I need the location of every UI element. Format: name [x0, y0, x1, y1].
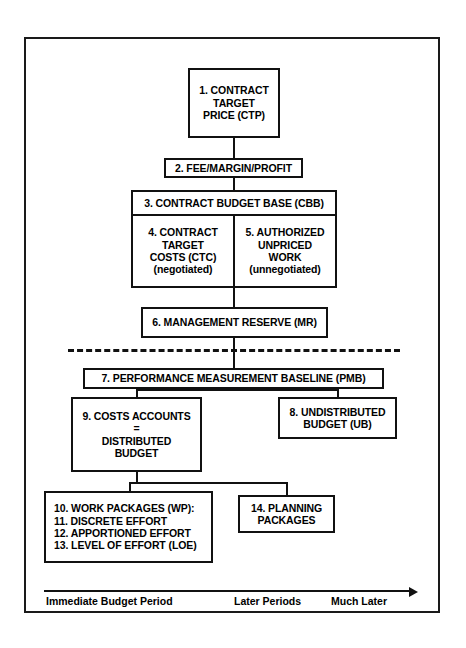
box-9-line-4: BUDGET	[115, 447, 159, 459]
box-1-line-3: PRICE (CTP)	[203, 109, 265, 121]
box-9-costs-accounts[interactable]: 9. COSTS ACCOUNTS = DISTRIBUTED BUDGET	[71, 397, 202, 472]
box-3-contract-budget-base[interactable]: 3. CONTRACT BUDGET BASE (CBB)	[131, 190, 337, 216]
box-7-line-1: 7. PERFORMANCE MEASUREMENT BASELINE (PMB…	[101, 372, 365, 384]
box-10-work-packages[interactable]: 10. WORK PACKAGES (WP): 11. DISCRETE EFF…	[44, 491, 213, 563]
connector-box6-to-box7	[233, 338, 235, 368]
connector-branch-to-box14	[286, 482, 288, 495]
dashed-separator-line	[68, 349, 400, 352]
box-5-line-3: WORK	[269, 251, 302, 263]
box-10-line-3: 12. APPORTIONED EFFORT	[54, 527, 191, 539]
connector-box2-to-box3	[233, 178, 235, 190]
box-5-line-1: 5. AUTHORIZED	[246, 226, 325, 238]
connector-branch-to-box10	[129, 482, 131, 491]
box-8-line-2: BUDGET (UB)	[303, 418, 371, 430]
box-10-line-1: 10. WORK PACKAGES (WP):	[54, 502, 194, 514]
box-3-line-1: 3. CONTRACT BUDGET BASE (CBB)	[144, 197, 324, 209]
connector-branch-bar-box9-box8	[136, 389, 339, 391]
connector-branch-to-box8	[337, 389, 339, 397]
box-9-line-1: 9. COSTS ACCOUNTS	[82, 410, 190, 422]
box-6-management-reserve[interactable]: 6. MANAGEMENT RESERVE (MR)	[141, 307, 328, 338]
box-9-line-3: DISTRIBUTED	[102, 435, 171, 447]
connector-box45-to-box6	[233, 286, 235, 307]
diagram-canvas: 1. CONTRACT TARGET PRICE (CTP) 2. FEE/MA…	[0, 0, 466, 648]
box-6-line-1: 6. MANAGEMENT RESERVE (MR)	[152, 316, 317, 328]
box-8-undistributed-budget[interactable]: 8. UNDISTRIBUTED BUDGET (UB)	[278, 397, 397, 439]
timeline-axis	[44, 590, 410, 592]
timeline-label-later-periods: Later Periods	[234, 595, 301, 607]
box-5-authorized-unpriced-work[interactable]: 5. AUTHORIZED UNPRICED WORK (unnegotiate…	[233, 214, 337, 288]
box-4-line-4: (negotiated)	[154, 263, 213, 275]
diagram-outer-frame: 1. CONTRACT TARGET PRICE (CTP) 2. FEE/MA…	[24, 37, 440, 613]
timeline-arrow-icon	[409, 587, 418, 597]
box-14-planning-packages[interactable]: 14. PLANNING PACKAGES	[238, 495, 335, 533]
timeline-label-much-later: Much Later	[331, 595, 387, 607]
connector-box1-to-box2	[233, 138, 235, 159]
box-8-line-1: 8. UNDISTRIBUTED	[290, 406, 386, 418]
box-10-line-4: 13. LEVEL OF EFFORT (LOE)	[54, 539, 197, 551]
box-2-line-1: 2. FEE/MARGIN/PROFIT	[175, 162, 292, 174]
box-1-contract-target-price[interactable]: 1. CONTRACT TARGET PRICE (CTP)	[188, 68, 280, 138]
box-2-fee-margin-profit[interactable]: 2. FEE/MARGIN/PROFIT	[164, 158, 303, 178]
box-4-line-1: 4. CONTRACT	[148, 226, 217, 238]
box-7-performance-measurement-baseline[interactable]: 7. PERFORMANCE MEASUREMENT BASELINE (PMB…	[83, 368, 384, 389]
box-9-line-2: =	[133, 422, 139, 434]
box-5-line-2: UNPRICED	[258, 239, 312, 251]
timeline-label-immediate-budget-period: Immediate Budget Period	[46, 595, 173, 607]
box-4-line-3: COSTS (CTC)	[150, 251, 217, 263]
connector-branch-bar-box10-box14	[129, 482, 288, 484]
connector-branch-to-box9	[136, 389, 138, 397]
box-14-line-2: PACKAGES	[258, 514, 316, 526]
box-4-contract-target-costs[interactable]: 4. CONTRACT TARGET COSTS (CTC) (negotiat…	[131, 214, 235, 288]
box-1-line-2: TARGET	[213, 97, 255, 109]
box-1-line-1: 1. CONTRACT	[199, 84, 268, 96]
box-14-line-1: 14. PLANNING	[251, 502, 322, 514]
box-4-line-2: TARGET	[162, 239, 204, 251]
box-10-line-2: 11. DISCRETE EFFORT	[54, 515, 167, 527]
box-5-line-4: (unnegotiated)	[249, 263, 321, 275]
